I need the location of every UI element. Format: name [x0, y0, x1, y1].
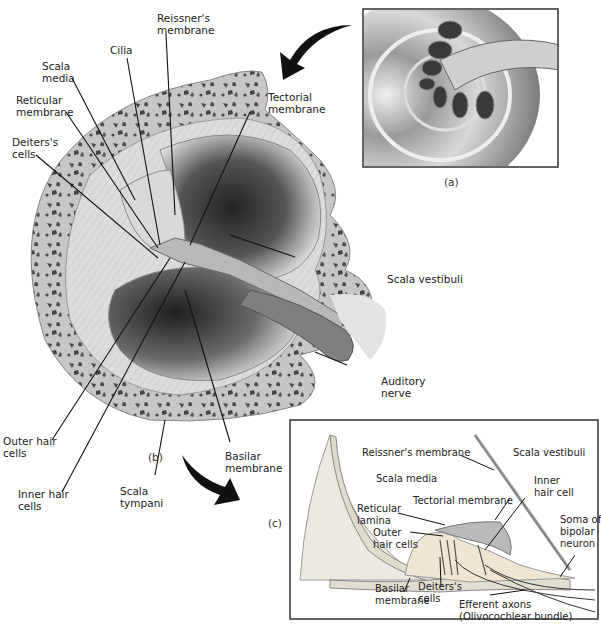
label-reissners-membrane-b: Reissner'smembrane	[157, 12, 214, 36]
label-soma-bipolar-neuron: Soma ofbipolarneuron	[560, 514, 601, 550]
label-scala-media-b: Scalamedia	[42, 60, 75, 84]
label-cilia: Cilia	[110, 44, 133, 56]
label-reticular-lamina: Reticularlamina	[357, 503, 401, 527]
label-scala-vestibuli-b: Scala vestibuli	[387, 273, 463, 285]
arrow-to-b-icon	[280, 25, 352, 80]
label-basilar-membrane-b: Basilarmembrane	[225, 450, 282, 474]
label-inner-hair-cell: Innerhair cell	[534, 475, 574, 499]
label-deiters-cells-c: Deiters'scells	[418, 581, 462, 605]
label-outer-hair-cells-c: Outerhair cells	[373, 527, 418, 551]
label-scala-tympani: Scalatympani	[120, 485, 163, 509]
label-efferent-axons: Efferent axons(Olivocochlear bundle)	[459, 599, 572, 623]
cochlea-figure: Reissner'smembrane Cilia Scalamedia Reti…	[0, 0, 601, 624]
caption-a: (a)	[444, 176, 459, 188]
label-scala-vestibuli-c: Scala vestibuli	[513, 447, 585, 459]
label-tectorial-membrane-b: Tectorialmembrane	[268, 91, 325, 115]
label-reissners-membrane-c: Reissner's membrane	[362, 447, 470, 459]
label-scala-media-c: Scala media	[376, 473, 437, 485]
label-deiters-cells-b: Deiters'scells	[12, 136, 58, 160]
label-reticular-membrane: Reticularmembrane	[16, 94, 73, 118]
caption-c: (c)	[268, 517, 282, 529]
caption-b: (b)	[148, 451, 163, 463]
label-tectorial-membrane-c: Tectorial membrane	[413, 495, 513, 507]
label-outer-hair-cells-b: Outer haircells	[3, 435, 56, 459]
panel-a-artwork	[320, 0, 560, 195]
label-inner-hair-cells-b: Inner haircells	[18, 488, 69, 512]
label-auditory-nerve: Auditorynerve	[381, 375, 426, 399]
